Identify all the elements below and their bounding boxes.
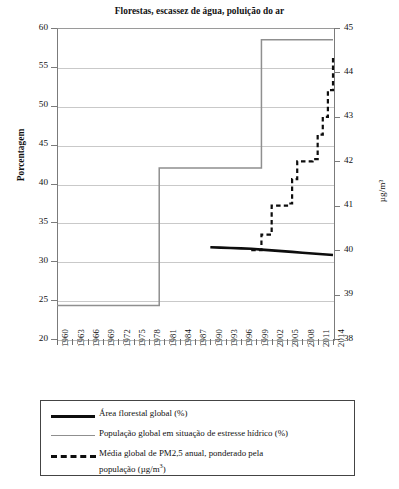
x-axis-tick xyxy=(318,339,319,345)
x-axis-tick xyxy=(190,339,191,344)
legend: Área florestal global (%) População glob… xyxy=(40,400,355,476)
x-axis-tick xyxy=(185,339,186,344)
x-axis-tick xyxy=(139,339,140,344)
x-axis-tick xyxy=(226,339,227,345)
x-axis-tick xyxy=(175,339,176,344)
x-axis-tick xyxy=(93,339,94,344)
x-axis-tick xyxy=(67,339,68,344)
series-line-1 xyxy=(57,40,333,306)
series-line-0 xyxy=(210,247,333,255)
x-axis-tick xyxy=(323,339,324,344)
y-axis-right-tick-label: 41 xyxy=(344,199,374,209)
y-axis-right-tick-label: 39 xyxy=(344,288,374,298)
x-axis-tick xyxy=(236,339,237,344)
x-axis-tick xyxy=(221,339,222,344)
x-axis-tick xyxy=(98,339,99,344)
x-axis-tick xyxy=(297,339,298,344)
legend-item-forest-area: Área florestal global (%) xyxy=(51,408,187,422)
x-axis-tick xyxy=(180,339,181,345)
x-axis-tick xyxy=(103,339,104,345)
y-axis-right-tick xyxy=(334,250,340,251)
x-axis-tick xyxy=(256,339,257,345)
y-axis-right-tick xyxy=(334,295,340,296)
data-series-layer xyxy=(57,28,333,339)
legend-label-line1: Média global de PM2,5 anual, ponderado p… xyxy=(99,448,263,458)
legend-item-label: Média global de PM2,5 anual, ponderado p… xyxy=(99,448,263,475)
solid-line-icon xyxy=(51,410,95,422)
x-axis-tick xyxy=(307,339,308,344)
x-axis-tick xyxy=(292,339,293,344)
thin-line-icon xyxy=(51,430,95,442)
legend-item-pm25: Média global de PM2,5 anual, ponderado p… xyxy=(51,448,263,475)
y-axis-left-tick-label: 25 xyxy=(14,294,48,304)
x-axis-tick xyxy=(118,339,119,345)
y-axis-right-tick-label: 45 xyxy=(344,22,374,32)
y-axis-left-tick-label: 60 xyxy=(14,22,48,32)
x-axis-tick xyxy=(287,339,288,345)
y-axis-right-tick-label: 40 xyxy=(344,244,374,254)
x-axis-tick xyxy=(159,339,160,344)
y-axis-right-tick xyxy=(334,28,340,29)
x-axis-tick xyxy=(246,339,247,344)
x-axis-tick xyxy=(134,339,135,345)
legend-item-label: Área florestal global (%) xyxy=(99,408,187,420)
x-axis-tick xyxy=(77,339,78,344)
x-axis-tick xyxy=(195,339,196,345)
y-axis-left-tick-label: 30 xyxy=(14,255,48,265)
x-axis-tick xyxy=(108,339,109,344)
x-axis-tick xyxy=(251,339,252,344)
x-axis-tick xyxy=(83,339,84,344)
y-axis-right-tick xyxy=(334,72,340,73)
y-axis-right-tick xyxy=(334,161,340,162)
x-axis-tick xyxy=(62,339,63,344)
y-axis-left-title: Porcentagem xyxy=(16,55,26,255)
legend-label-line2-unit: µg/m xyxy=(141,463,160,473)
x-axis-tick xyxy=(313,339,314,344)
x-axis-tick xyxy=(241,339,242,345)
x-axis-tick xyxy=(282,339,283,344)
x-axis-tick xyxy=(231,339,232,344)
x-axis-tick xyxy=(200,339,201,344)
x-axis-tick xyxy=(123,339,124,344)
x-axis-tick xyxy=(144,339,145,344)
x-axis-tick xyxy=(72,339,73,345)
x-axis-tick xyxy=(154,339,155,344)
y-axis-right-title: µg/m³ xyxy=(377,91,387,291)
x-axis-tick xyxy=(57,339,58,345)
x-axis-tick xyxy=(88,339,89,345)
x-axis-tick xyxy=(333,339,334,345)
x-axis-tick xyxy=(215,339,216,344)
chart-title: Florestas, escassez de água, poluição do… xyxy=(0,6,399,16)
x-axis-tick xyxy=(261,339,262,344)
chart-page: Florestas, escassez de água, poluição do… xyxy=(0,0,399,489)
x-axis-tick xyxy=(129,339,130,344)
x-axis-tick xyxy=(169,339,170,344)
x-axis-tick xyxy=(149,339,150,345)
x-axis-tick xyxy=(277,339,278,344)
legend-label-line2-pre: população ( xyxy=(99,463,141,473)
series-line-2 xyxy=(251,55,333,250)
legend-item-label: População global em situação de estresse… xyxy=(99,428,288,440)
x-axis-tick xyxy=(302,339,303,345)
y-axis-right-tick-label: 38 xyxy=(344,333,374,343)
x-axis-tick xyxy=(210,339,211,345)
x-axis-tick-label: 2014 xyxy=(336,329,346,347)
legend-label-line2-post: ) xyxy=(163,463,166,473)
y-axis-right-tick xyxy=(334,206,340,207)
x-axis-tick xyxy=(328,339,329,344)
y-axis-right-tick-label: 44 xyxy=(344,66,374,76)
dashed-line-icon xyxy=(51,450,95,462)
y-axis-left-tick-label: 20 xyxy=(14,333,48,343)
x-axis-tick xyxy=(113,339,114,344)
x-axis-tick xyxy=(205,339,206,344)
y-axis-right-tick-label: 43 xyxy=(344,110,374,120)
x-axis-tick xyxy=(272,339,273,345)
y-axis-right-tick-label: 42 xyxy=(344,155,374,165)
x-axis-tick xyxy=(164,339,165,345)
y-axis-right-tick xyxy=(334,117,340,118)
legend-item-water-stress: População global em situação de estresse… xyxy=(51,428,288,442)
x-axis-tick xyxy=(267,339,268,344)
